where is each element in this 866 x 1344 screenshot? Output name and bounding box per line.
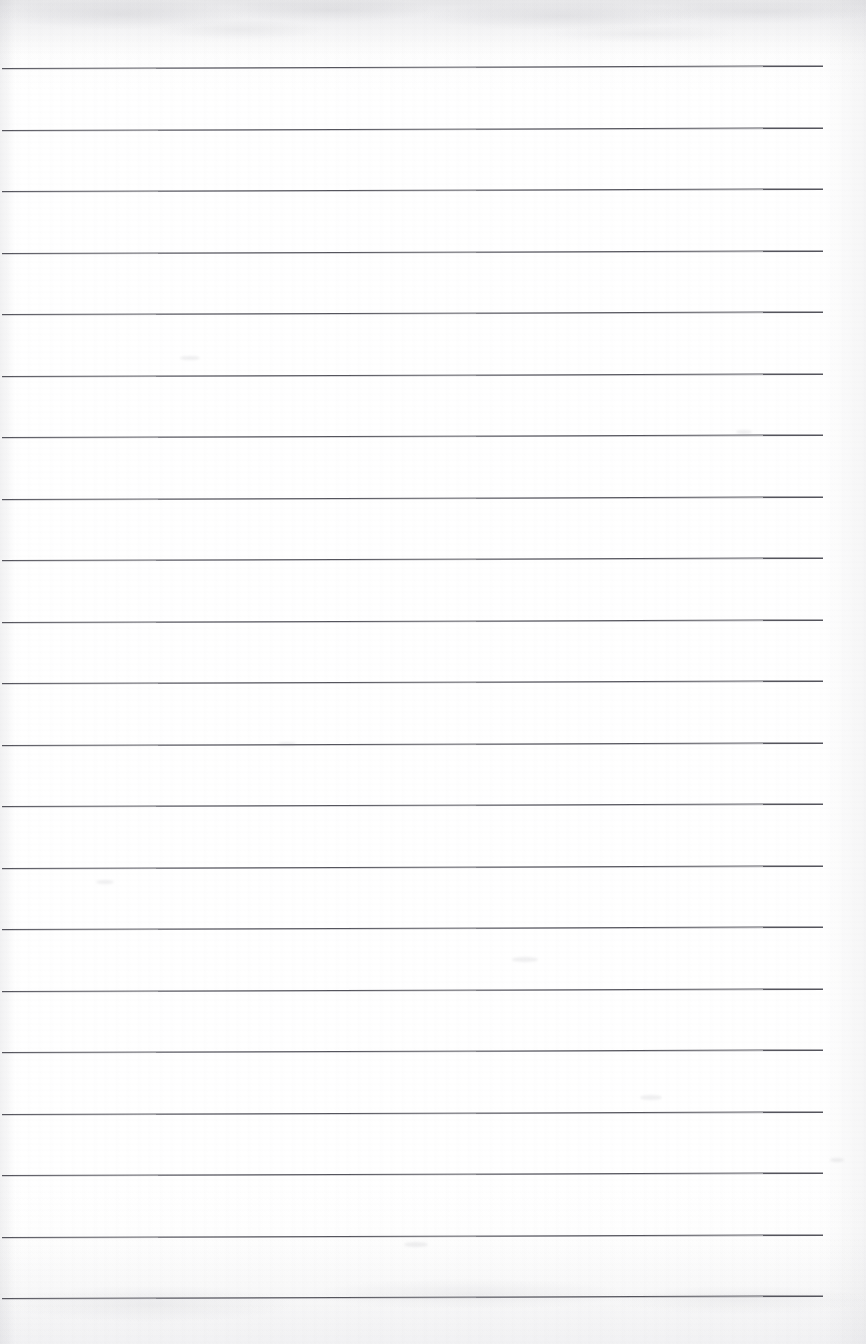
scanned-page	[0, 0, 866, 1344]
paper-background	[0, 0, 866, 1344]
